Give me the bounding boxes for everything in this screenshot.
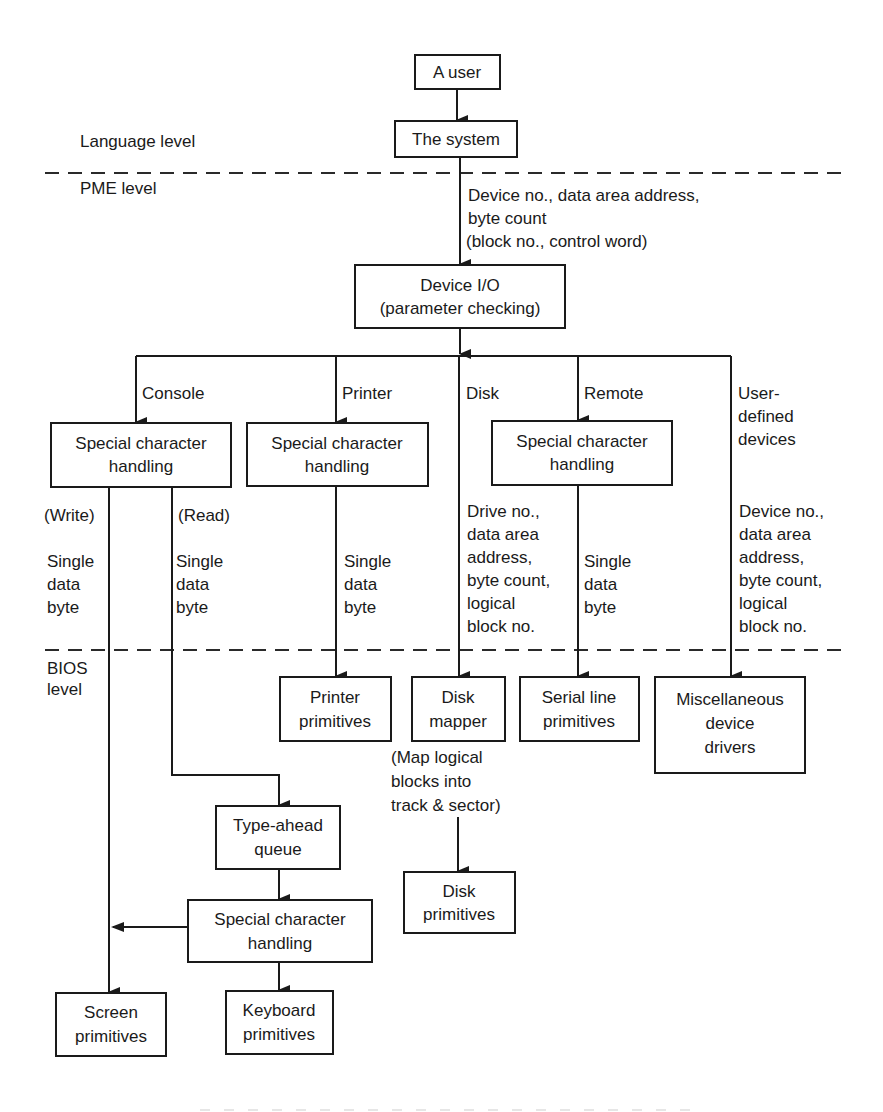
write-data-label: Single data byte (47, 552, 94, 617)
user-node: A user (415, 55, 500, 89)
svg-text:(Map logical: (Map logical (391, 748, 483, 767)
svg-text:byte count,: byte count, (467, 571, 550, 590)
keyboard-primitives-node: Keyboard primitives (226, 991, 333, 1054)
svg-text:A user: A user (433, 63, 482, 82)
echo-arrowhead-icon (111, 922, 124, 932)
svg-text:Device no., data area address,: Device no., data area address, (468, 186, 700, 205)
remote-special-char-node: Special character handling (492, 421, 672, 485)
system-node: The system (395, 121, 517, 157)
screen-primitives-node: Screen primitives (56, 993, 166, 1056)
disk-data-label: Drive no., data area address, byte count… (467, 502, 550, 636)
svg-text:Disk: Disk (441, 688, 475, 707)
svg-text:data: data (47, 575, 81, 594)
svg-text:primitives: primitives (243, 1025, 315, 1044)
svg-text:Single: Single (47, 552, 94, 571)
svg-text:data: data (584, 575, 618, 594)
remote-data-label: Single data byte (584, 552, 631, 617)
svg-text:Disk: Disk (442, 882, 476, 901)
svg-text:devices: devices (738, 430, 796, 449)
svg-text:Keyboard: Keyboard (243, 1001, 316, 1020)
svg-text:(block no., control word): (block no., control word) (466, 232, 647, 251)
disk-label: Disk (466, 384, 500, 403)
svg-text:address,: address, (467, 548, 532, 567)
read-data-label: Single data byte (176, 552, 223, 617)
printer-special-char-node: Special character handling (247, 423, 428, 486)
svg-text:device: device (705, 714, 754, 733)
svg-text:The system: The system (412, 130, 500, 149)
svg-text:primitives: primitives (543, 712, 615, 731)
svg-text:data: data (344, 575, 378, 594)
serial-line-primitives-node: Serial line primitives (520, 677, 639, 741)
type-ahead-queue-node: Type-ahead queue (216, 806, 340, 869)
write-label: (Write) (44, 506, 95, 525)
user-defined-label: User- defined devices (738, 384, 796, 449)
svg-text:primitives: primitives (299, 712, 371, 731)
svg-text:Single: Single (176, 552, 223, 571)
svg-text:byte count,: byte count, (739, 571, 822, 590)
printer-primitives-node: Printer primitives (280, 677, 391, 741)
svg-text:data area: data area (467, 525, 539, 544)
svg-text:logical: logical (467, 594, 515, 613)
svg-text:handling: handling (550, 455, 614, 474)
svg-text:Miscellaneous: Miscellaneous (676, 690, 784, 709)
bios-level-label-2: level (47, 680, 82, 699)
svg-text:byte: byte (47, 598, 79, 617)
read-path-arrow (172, 487, 279, 805)
printer-label: Printer (342, 384, 392, 403)
svg-text:track & sector): track & sector) (391, 796, 501, 815)
console-special-char-node: Special character handling (51, 423, 231, 487)
svg-text:defined: defined (738, 407, 794, 426)
svg-text:(parameter checking): (parameter checking) (380, 299, 541, 318)
disk-primitives-node: Disk primitives (404, 872, 515, 933)
svg-text:byte: byte (584, 598, 616, 617)
svg-text:block no.: block no. (739, 617, 807, 636)
svg-text:User-: User- (738, 384, 780, 403)
system-to-io-label: Device no., data area address, byte coun… (466, 186, 700, 251)
io-hierarchy-diagram: Language level PME level BIOS level A us… (0, 0, 883, 1112)
svg-text:primitives: primitives (75, 1027, 147, 1046)
svg-text:queue: queue (254, 840, 301, 859)
pme-level-label: PME level (80, 179, 157, 198)
svg-text:data: data (176, 575, 210, 594)
svg-text:data area: data area (739, 525, 811, 544)
console-label: Console (142, 384, 204, 403)
svg-text:logical: logical (739, 594, 787, 613)
svg-text:Special character: Special character (271, 434, 403, 453)
language-level-label: Language level (80, 132, 195, 151)
svg-text:byte: byte (344, 598, 376, 617)
svg-text:Single: Single (344, 552, 391, 571)
svg-text:Type-ahead: Type-ahead (233, 816, 323, 835)
svg-text:Screen: Screen (84, 1003, 138, 1022)
svg-text:Special character: Special character (75, 434, 207, 453)
disk-mapper-note: (Map logical blocks into track & sector) (391, 748, 501, 815)
bios-level-label-1: BIOS (47, 659, 88, 678)
svg-text:blocks into: blocks into (391, 772, 471, 791)
user-data-label: Device no., data area address, byte coun… (739, 502, 824, 636)
svg-text:address,: address, (739, 548, 804, 567)
read-label: (Read) (178, 506, 230, 525)
svg-text:handling: handling (109, 457, 173, 476)
svg-text:Single: Single (584, 552, 631, 571)
svg-text:Special character: Special character (516, 432, 648, 451)
svg-text:mapper: mapper (429, 712, 487, 731)
remote-label: Remote (584, 384, 644, 403)
keyboard-special-char-node: Special character handling (188, 900, 372, 962)
svg-text:Serial line: Serial line (542, 688, 617, 707)
svg-text:primitives: primitives (423, 905, 495, 924)
svg-text:Device no.,: Device no., (739, 502, 824, 521)
misc-device-drivers-node: Miscellaneous device drivers (655, 677, 805, 773)
disk-mapper-node: Disk mapper (412, 677, 505, 741)
svg-text:Special character: Special character (214, 910, 346, 929)
svg-text:block no.: block no. (467, 617, 535, 636)
svg-text:handling: handling (248, 934, 312, 953)
svg-text:drivers: drivers (704, 738, 755, 757)
svg-text:handling: handling (305, 457, 369, 476)
svg-text:Printer: Printer (310, 688, 360, 707)
svg-text:byte count: byte count (468, 209, 547, 228)
device-io-node: Device I/O (parameter checking) (355, 265, 565, 328)
svg-text:Device I/O: Device I/O (420, 276, 499, 295)
printer-data-label: Single data byte (344, 552, 391, 617)
svg-text:Drive no.,: Drive no., (467, 502, 540, 521)
svg-text:byte: byte (176, 598, 208, 617)
